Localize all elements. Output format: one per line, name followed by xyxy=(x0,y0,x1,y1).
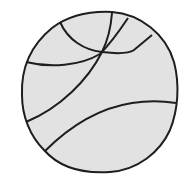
ball-outline xyxy=(22,12,178,172)
illustration-canvas: Basketball line drawing xyxy=(0,0,189,182)
basketball-icon xyxy=(0,0,189,182)
